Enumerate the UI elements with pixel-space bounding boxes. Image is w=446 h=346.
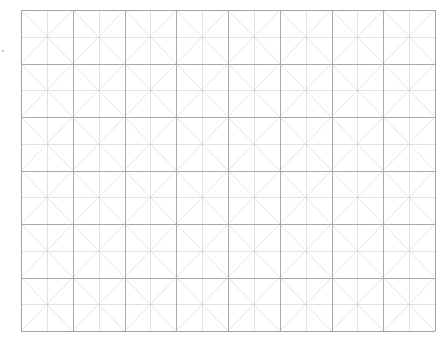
cell-center-dot bbox=[47, 197, 48, 198]
cell-center-dot bbox=[254, 304, 255, 305]
cell-center-dot bbox=[409, 304, 410, 305]
cell-center-dot bbox=[357, 197, 358, 198]
cell-center-dot bbox=[150, 197, 151, 198]
cell-center-dot bbox=[150, 144, 151, 145]
cell-center-dot bbox=[306, 37, 307, 38]
cell-center-dot bbox=[306, 90, 307, 91]
cell-center-dot bbox=[409, 251, 410, 252]
cell-center-dot bbox=[47, 251, 48, 252]
cell-center-dot bbox=[306, 197, 307, 198]
cell-center-dot bbox=[409, 197, 410, 198]
cell-center-dot bbox=[409, 144, 410, 145]
cell-center-dot bbox=[202, 37, 203, 38]
mi-zi-ge-grid bbox=[0, 0, 446, 346]
cell-center-dot bbox=[202, 304, 203, 305]
cell-center-dot bbox=[357, 90, 358, 91]
calligraphy-practice-sheet bbox=[0, 0, 446, 346]
cell-center-dot bbox=[47, 144, 48, 145]
cell-center-dot bbox=[202, 251, 203, 252]
cell-center-dot bbox=[47, 304, 48, 305]
cell-center-dot bbox=[254, 144, 255, 145]
cell-center-dot bbox=[150, 251, 151, 252]
cell-center-dot bbox=[99, 304, 100, 305]
cell-center-dot bbox=[357, 37, 358, 38]
cell-center-dot bbox=[254, 90, 255, 91]
cell-center-dot bbox=[357, 251, 358, 252]
cell-center-dot bbox=[357, 144, 358, 145]
cell-center-dot bbox=[99, 251, 100, 252]
cell-center-dot bbox=[254, 197, 255, 198]
cell-center-dot bbox=[99, 90, 100, 91]
cell-center-dot bbox=[306, 144, 307, 145]
cell-center-dot bbox=[409, 37, 410, 38]
cell-center-dot bbox=[202, 90, 203, 91]
cell-center-dot bbox=[357, 304, 358, 305]
cell-center-dot bbox=[202, 144, 203, 145]
cell-center-dot bbox=[306, 304, 307, 305]
cell-center-dot bbox=[150, 304, 151, 305]
cell-center-dot bbox=[99, 197, 100, 198]
cell-center-dot bbox=[150, 37, 151, 38]
cell-center-dot bbox=[202, 197, 203, 198]
cell-center-dot bbox=[254, 37, 255, 38]
cell-center-dot bbox=[99, 144, 100, 145]
cell-center-dot bbox=[254, 251, 255, 252]
cell-center-dot bbox=[150, 90, 151, 91]
cell-center-dot bbox=[306, 251, 307, 252]
cell-center-dot bbox=[47, 90, 48, 91]
cell-center-dot bbox=[99, 37, 100, 38]
cell-center-dot bbox=[47, 37, 48, 38]
cell-center-dot bbox=[409, 90, 410, 91]
